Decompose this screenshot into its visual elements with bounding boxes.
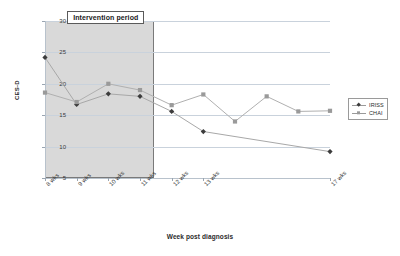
legend-item-chai[interactable]: CHAI [352,109,384,117]
y-axis-title: CES-D [14,80,20,100]
y-tick-label: 30 [48,18,66,24]
x-tick-mark [330,178,331,181]
legend-item-iriss[interactable]: IRISS [352,101,384,109]
x-tick-label: 17 wks [330,170,347,187]
square-marker-icon [357,111,360,114]
y-tick-label: 15 [48,112,66,118]
legend-label-chai: CHAI [369,110,383,116]
y-tick-mark [42,21,45,22]
legend-line-chai [352,113,366,114]
data-point-chai [170,103,174,107]
x-tick-mark [45,178,46,181]
x-tick-mark [203,178,204,181]
data-point-iriss [327,149,332,154]
y-tick-label: 25 [48,49,66,55]
y-axis-line [45,21,46,179]
x-tick-mark [140,178,141,181]
data-point-chai [265,94,269,98]
data-point-chai [233,119,237,123]
intervention-period-label: Intervention period [67,11,144,24]
y-tick-mark [42,147,45,148]
data-point-iriss [201,129,206,134]
y-tick-mark [42,115,45,116]
chart-legend: IRISS CHAI [348,98,388,120]
y-tick-label: 20 [48,81,66,87]
gridline [45,84,330,85]
intervention-period-band [45,21,154,178]
chart-canvas: 51015202530 CES-D 8 wks9 wks10 wks11 wks… [0,0,400,256]
legend-label-iriss: IRISS [369,102,384,108]
x-tick-mark [172,178,173,181]
legend-line-iriss [352,105,366,106]
y-tick-label: 10 [48,144,66,150]
x-tick-mark [108,178,109,181]
diamond-marker-icon [356,103,361,108]
data-point-chai [328,109,332,113]
y-tick-mark [42,52,45,53]
data-point-iriss [169,109,174,114]
gridline [45,115,330,116]
data-point-chai [201,92,205,96]
x-tick-mark [77,178,78,181]
y-tick-mark [42,84,45,85]
x-axis-title: Week post diagnosis [0,233,400,240]
gridline [45,52,330,53]
data-point-chai [296,109,300,113]
gridline [45,147,330,148]
